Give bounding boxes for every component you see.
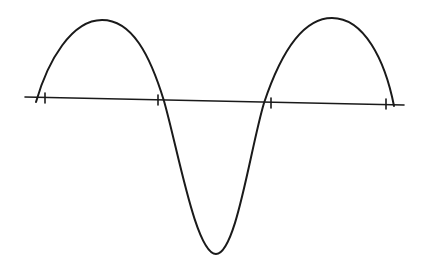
waveform-diagram xyxy=(0,0,423,272)
waveform-curve xyxy=(36,18,394,254)
horizontal-axis xyxy=(25,97,404,105)
